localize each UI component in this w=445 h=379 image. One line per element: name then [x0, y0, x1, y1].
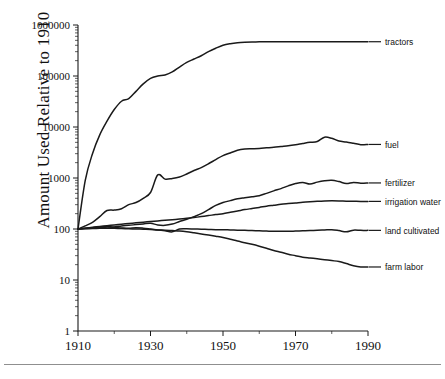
series-label-farm-labor: farm labor — [385, 262, 423, 272]
series-label-irrigation-water: irrigation water — [385, 197, 441, 207]
series-label-fertilizer: fertilizer — [385, 178, 415, 188]
line-chart-canvas: 1101001000100001000001000000191019301950… — [0, 0, 445, 379]
x-tick-label: 1990 — [355, 338, 381, 353]
chart-root: Amount Used Relative to 1910 11010010001… — [0, 0, 445, 379]
series-line-fertilizer — [78, 180, 368, 229]
series-line-fuel — [78, 137, 368, 229]
series-line-irrigation-water — [78, 201, 368, 229]
series-label-fuel: fuel — [385, 140, 399, 150]
footer-divider — [4, 364, 441, 365]
y-axis-title: Amount Used Relative to 1910 — [34, 0, 54, 260]
y-tick-label: 1 — [65, 325, 71, 337]
series-line-farm-labor — [78, 228, 368, 267]
y-tick-label: 10 — [59, 274, 71, 286]
x-tick-label: 1970 — [283, 338, 309, 353]
x-tick-label: 1950 — [210, 338, 236, 353]
series-label-land-cultivated: land cultivated — [385, 226, 440, 236]
x-tick-label: 1910 — [65, 338, 91, 353]
chart-axes — [78, 25, 368, 331]
series-line-land-cultivated — [78, 227, 368, 232]
x-tick-label: 1930 — [138, 338, 164, 353]
series-label-tractors: tractors — [385, 37, 413, 47]
y-tick-label: 100 — [54, 223, 71, 235]
